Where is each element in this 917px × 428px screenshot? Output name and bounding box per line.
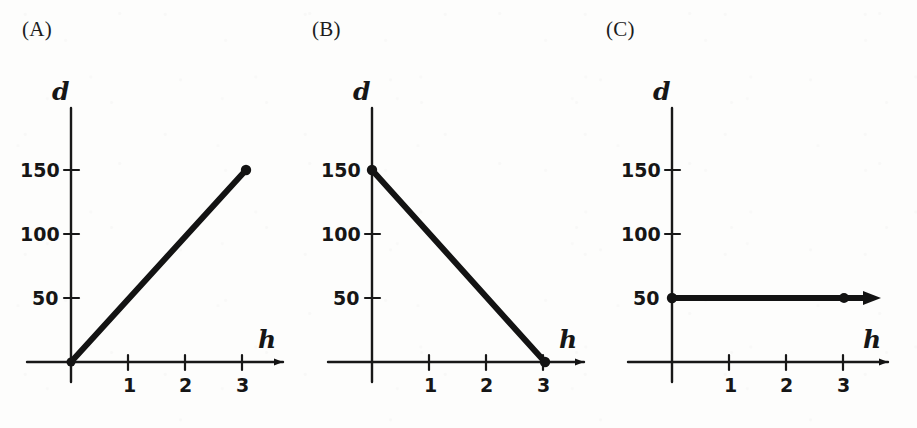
y-tick-label-150-a: 150: [20, 159, 60, 181]
x-tick-label-1-a: 1: [123, 374, 136, 396]
y-axis-label-a: d: [52, 77, 69, 106]
x-tick-label-2-c: 2: [780, 374, 793, 396]
data-point-c-start: [667, 293, 677, 303]
chart-panel-b: (B) d h 150 100 50 1 2 3: [300, 0, 606, 428]
chart-panel-c: (C) d h 150 100 50 1 2 3: [598, 0, 917, 428]
x-axis-arrow-b: [575, 359, 584, 366]
data-point-c-mid: [839, 293, 849, 303]
data-line-a: [71, 170, 246, 362]
y-tick-label-100-b: 100: [321, 223, 361, 245]
y-tick-label-50-b: 50: [333, 287, 359, 309]
y-tick-label-100-a: 100: [20, 223, 60, 245]
data-point-a-origin: [67, 358, 76, 367]
chart-panel-a: (A) d h 150 100 50 1 2 3: [0, 0, 306, 428]
y-tick-label-150-b: 150: [321, 159, 361, 181]
data-point-a-end: [241, 165, 251, 175]
x-axis-arrow-a: [274, 359, 283, 366]
y-tick-label-50-a: 50: [32, 287, 58, 309]
x-axis-label-c: h: [863, 325, 881, 354]
x-tick-label-1-b: 1: [424, 374, 437, 396]
x-tick-label-2-b: 2: [480, 374, 493, 396]
data-point-b-end: [540, 357, 550, 367]
svg-text:100: 100: [20, 223, 60, 245]
data-line-arrow-c: [863, 291, 881, 305]
x-axis-label-a: h: [258, 325, 276, 354]
x-tick-label-2-a: 2: [179, 374, 192, 396]
x-tick-label-1-c: 1: [724, 374, 737, 396]
x-tick-label-3-a: 3: [236, 374, 249, 396]
data-point-b-start: [367, 165, 377, 175]
y-axis-label-c: d: [653, 77, 670, 106]
svg-text:150: 150: [20, 159, 60, 181]
plot-a: d h 150 100 50 1 2 3: [0, 0, 306, 428]
plot-b: d h 150 100 50 1 2 3: [300, 0, 606, 428]
x-axis-label-b: h: [559, 325, 577, 354]
data-line-b: [372, 170, 545, 362]
y-tick-label-50-c: 50: [633, 287, 659, 309]
x-tick-label-3-b: 3: [537, 374, 550, 396]
y-tick-label-100-c: 100: [621, 223, 661, 245]
svg-text:50: 50: [32, 287, 58, 309]
x-tick-label-3-c: 3: [837, 374, 850, 396]
plot-c: d h 150 100 50 1 2 3: [598, 0, 917, 428]
y-axis-label-b: d: [353, 77, 370, 106]
y-tick-label-150-c: 150: [621, 159, 661, 181]
x-axis-arrow-c: [879, 359, 888, 366]
